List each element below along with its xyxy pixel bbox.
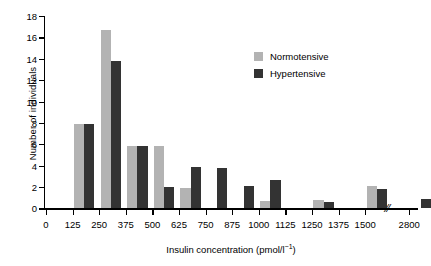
x-tick-mark-1250: [312, 210, 313, 215]
y-tick-mark: [39, 37, 44, 38]
x-tick-mark-250: [99, 210, 100, 215]
legend-item-hypertensive: Hypertensive: [254, 65, 329, 82]
x-tick-mark-2800: [409, 210, 410, 215]
bar-hypertensive-875: [244, 186, 254, 208]
bar-hypertensive-2800: [421, 199, 431, 209]
bar-normotensive-1250: [313, 200, 323, 209]
x-axis-title-close: ): [293, 244, 296, 255]
x-axis-title: Insulin concentration (pmol/l−1): [44, 243, 418, 255]
x-tick-label-0: 0: [43, 219, 48, 230]
y-tick-mark: [39, 59, 44, 60]
bar-normotensive-375: [127, 146, 137, 208]
y-tick-label: 6: [32, 139, 37, 150]
bar-hypertensive-1000: [270, 180, 280, 209]
x-tick-label-625: 625: [171, 219, 187, 230]
bar-normotensive-250: [101, 30, 111, 209]
y-tick-label: 8: [32, 117, 37, 128]
x-tick-label-500: 500: [144, 219, 160, 230]
x-tick-mark-1000: [259, 210, 260, 215]
y-tick-mark: [39, 144, 44, 145]
bar-hypertensive-625: [191, 167, 201, 209]
x-tick-label-1125: 1125: [275, 219, 295, 230]
bar-hypertensive-375: [137, 146, 147, 208]
x-tick-label-875: 875: [224, 219, 240, 230]
bar-normotensive-500: [154, 146, 164, 208]
y-tick-label: 18: [26, 11, 37, 22]
x-tick-mark-0: [46, 210, 47, 215]
y-tick-mark: [39, 208, 44, 209]
x-tick-label-250: 250: [91, 219, 107, 230]
plot-area: 024681012141618 012525037550062575087510…: [44, 16, 418, 210]
y-tick-label: 10: [26, 96, 37, 107]
y-tick-label: 0: [32, 203, 37, 214]
bar-hypertensive-250: [111, 61, 121, 209]
legend-item-normotensive: Normotensive: [254, 48, 329, 65]
bar-normotensive-125: [74, 124, 84, 208]
y-tick-label: 2: [32, 182, 37, 193]
x-tick-label-125: 125: [65, 219, 81, 230]
bar-hypertensive-1250: [324, 202, 334, 208]
x-tick-label-1250: 1250: [301, 219, 322, 230]
x-tick-mark-875: [232, 210, 233, 215]
legend-label-hypertensive: Hypertensive: [270, 68, 325, 79]
y-tick-mark: [39, 187, 44, 188]
bar-hypertensive-125: [84, 124, 94, 208]
x-tick-label-750: 750: [198, 219, 214, 230]
y-tick-label: 16: [26, 32, 37, 43]
x-tick-label-375: 375: [118, 219, 134, 230]
legend: Normotensive Hypertensive: [254, 48, 329, 82]
bar-hypertensive-1500: [377, 189, 387, 208]
x-tick-mark-1125: [285, 210, 286, 215]
y-tick-mark: [39, 16, 44, 17]
x-axis-title-exponent: −1: [285, 243, 293, 250]
x-tick-label-1500: 1500: [355, 219, 376, 230]
y-tick-mark: [39, 166, 44, 167]
legend-label-normotensive: Normotensive: [270, 51, 329, 62]
bar-normotensive-1500: [367, 186, 377, 208]
y-tick-label: 12: [26, 75, 37, 86]
x-tick-label-1000: 1000: [248, 219, 269, 230]
bar-normotensive-1000: [260, 201, 270, 208]
bar-normotensive-625: [180, 188, 190, 208]
x-axis-title-text: Insulin concentration (pmol/l: [166, 244, 284, 255]
y-tick-mark: [39, 102, 44, 103]
x-tick-mark-375: [126, 210, 127, 215]
legend-swatch-icon-normotensive: [254, 52, 263, 61]
y-tick-label: 14: [26, 53, 37, 64]
y-axis-line: [44, 16, 45, 210]
x-tick-mark-625: [179, 210, 180, 215]
bar-hypertensive-500: [164, 187, 174, 208]
x-tick-mark-1500: [365, 210, 366, 215]
bar-hypertensive-750: [217, 168, 227, 209]
y-tick-label: 4: [32, 160, 37, 171]
x-tick-mark-500: [152, 210, 153, 215]
x-tick-label-2800: 2800: [399, 219, 420, 230]
x-tick-label-1375: 1375: [328, 219, 349, 230]
legend-swatch-icon-hypertensive: [254, 69, 263, 78]
x-tick-mark-1375: [339, 210, 340, 215]
y-tick-mark: [39, 80, 44, 81]
x-tick-mark-750: [206, 210, 207, 215]
y-tick-mark: [39, 123, 44, 124]
x-tick-mark-125: [73, 210, 74, 215]
